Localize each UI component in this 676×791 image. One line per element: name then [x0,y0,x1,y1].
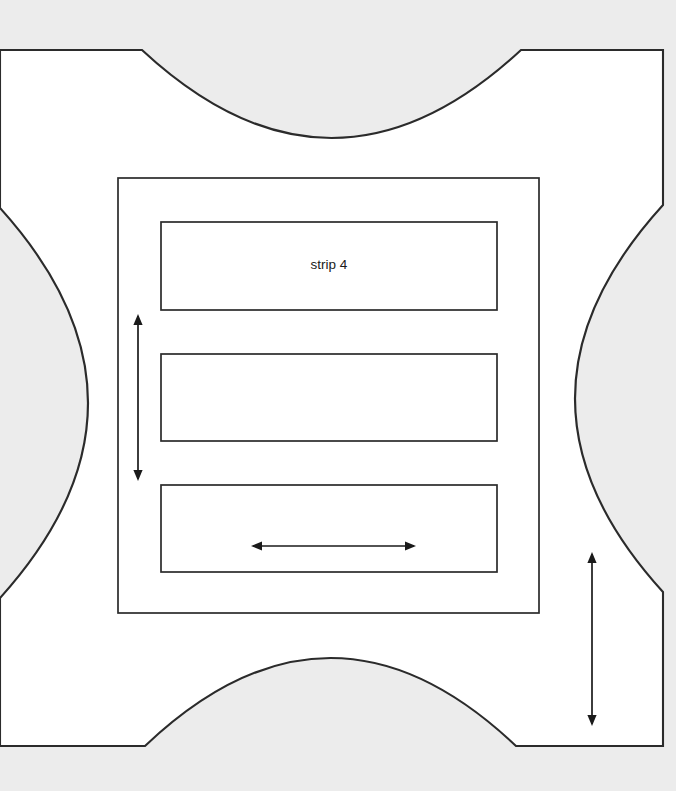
diagram-canvas: strip 4 [0,0,676,791]
strip-layout-diagram: strip 4 [0,0,676,791]
strip-1: strip 4 [161,222,497,310]
strip-2 [161,354,497,441]
strip-3 [161,485,497,572]
strip-group: strip 4 [161,222,497,572]
strip-rect [161,485,497,572]
strip-label: strip 4 [311,257,348,272]
strip-rect [161,354,497,441]
